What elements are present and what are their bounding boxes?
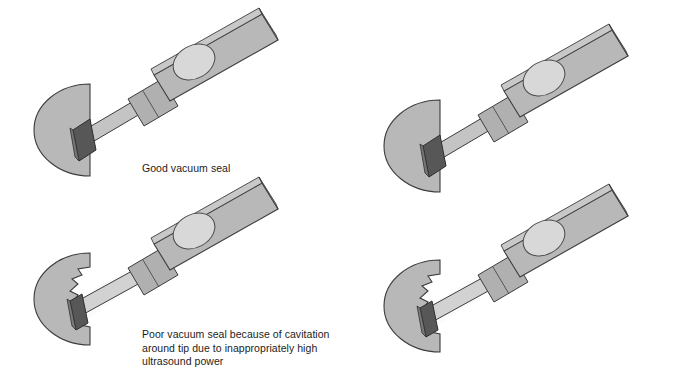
panel-bottom-left	[34, 177, 278, 345]
vacuum-seal-diagram	[0, 0, 700, 373]
panel-bottom-right	[384, 184, 628, 352]
caption-good-vacuum-seal: Good vacuum seal	[142, 162, 230, 176]
caption-poor-vacuum-seal: Poor vacuum seal because of cavitation a…	[142, 328, 330, 369]
panel-top-right	[384, 24, 628, 192]
figure-root: Good vacuum seal Poor vacuum seal becaus…	[0, 0, 700, 373]
panel-top-left	[34, 8, 278, 176]
